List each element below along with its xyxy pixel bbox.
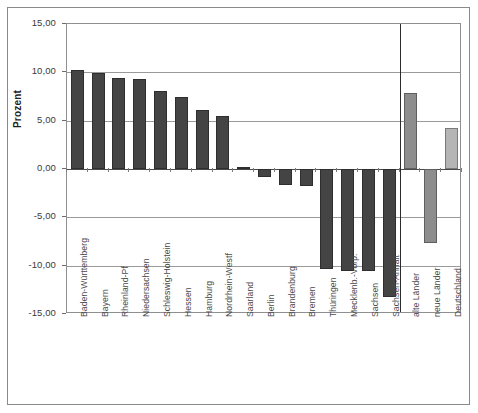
y-tick-label: -5,00 xyxy=(0,211,56,221)
x-axis-category-label: Bremen xyxy=(308,286,317,317)
x-axis-category-label: Schleswig-Holstein xyxy=(163,243,172,317)
x-axis-category-label: Brandenburg xyxy=(288,266,297,317)
x-axis-category-label: Hamburg xyxy=(205,281,214,317)
y-tick-mark xyxy=(62,313,66,314)
y-tick-label: -15,00 xyxy=(0,308,56,318)
x-tick-mark xyxy=(419,168,420,172)
x-tick-mark xyxy=(87,168,88,172)
y-tick-label: 15,00 xyxy=(0,18,56,28)
x-axis-category-label: Thüringen xyxy=(329,277,338,317)
bar xyxy=(300,169,313,186)
x-tick-mark xyxy=(253,168,254,172)
bar xyxy=(196,110,209,169)
gridline xyxy=(67,217,460,218)
x-tick-mark xyxy=(170,168,171,172)
x-axis-category-label: Niedersachsen xyxy=(142,258,151,317)
x-axis-category-label: neue Länder xyxy=(433,268,442,317)
x-tick-mark xyxy=(149,168,150,172)
x-tick-mark xyxy=(461,168,462,172)
gridline xyxy=(67,72,460,73)
bar xyxy=(92,73,105,169)
x-axis-category-label: Sachsen xyxy=(371,283,380,317)
x-axis-category-label: Nordrhein-Westf xyxy=(225,253,234,317)
x-axis-category-label: Saarland xyxy=(246,282,255,317)
x-axis-category-label: Bayern xyxy=(101,289,110,317)
bar xyxy=(112,78,125,169)
x-axis-category-label: Sachsen-Anhalt xyxy=(392,255,401,317)
x-tick-mark xyxy=(357,168,358,172)
bar xyxy=(216,116,229,169)
y-tick-label: 0,00 xyxy=(0,163,56,173)
x-tick-mark xyxy=(128,168,129,172)
bar xyxy=(362,169,375,271)
y-tick-label: 10,00 xyxy=(0,66,56,76)
x-axis-category-label: Deutschland xyxy=(454,268,463,317)
x-axis-category-label: Hessen xyxy=(184,287,193,317)
x-tick-mark xyxy=(399,168,400,172)
y-tick-label: 5,00 xyxy=(0,115,56,125)
x-tick-mark xyxy=(232,168,233,172)
bar xyxy=(320,169,333,269)
bar xyxy=(237,167,250,169)
x-axis-category-label: alte Länder xyxy=(412,273,421,317)
x-tick-mark xyxy=(66,168,67,172)
x-tick-mark xyxy=(336,168,337,172)
x-tick-mark xyxy=(212,168,213,172)
bar xyxy=(404,93,417,169)
bar xyxy=(279,169,292,185)
chart-container: Prozent 15,0010,005,000,00-5,00-10,00-15… xyxy=(0,0,478,413)
bar xyxy=(424,169,437,243)
bar xyxy=(445,128,458,169)
x-tick-mark xyxy=(378,168,379,172)
x-axis-category-label: Mecklenb.-Vorp. xyxy=(350,253,359,317)
x-axis-category-label: Rheinland-Pf xyxy=(121,266,130,317)
bar xyxy=(133,79,146,169)
bar xyxy=(71,70,84,169)
x-axis-category-label: Baden-Württemberg xyxy=(80,238,89,317)
x-tick-mark xyxy=(315,168,316,172)
y-tick-label: -10,00 xyxy=(0,260,56,270)
gridline xyxy=(67,121,460,122)
x-tick-mark xyxy=(440,168,441,172)
bar xyxy=(258,169,271,177)
x-axis-category-label: Berlin xyxy=(267,294,276,317)
x-tick-mark xyxy=(274,168,275,172)
x-tick-mark xyxy=(191,168,192,172)
bar xyxy=(175,97,188,169)
x-tick-mark xyxy=(295,168,296,172)
x-tick-mark xyxy=(108,168,109,172)
bar xyxy=(154,91,167,169)
